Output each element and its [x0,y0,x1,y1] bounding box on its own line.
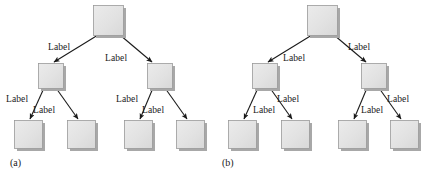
tree-diagram-figure: LabelLabelLabelLabelLabelLabelLabelLabel… [0,0,428,179]
panel-b-leaf-node-1[interactable] [229,121,260,152]
node-box[interactable] [148,64,173,89]
panel-a-edge-label-left-leaf2: Label [33,106,55,116]
nodes-group [15,6,422,152]
panel-a-edge-label-right-leaf3: Label [116,95,138,105]
node-box[interactable] [339,121,367,149]
panel-a-edge-label-left-leaf1: Label [6,95,28,105]
panel-b-leaf-node-3[interactable] [339,121,370,152]
node-box[interactable] [94,6,124,36]
node-box[interactable] [362,64,387,89]
panel-a-leaf-node-2[interactable] [68,121,99,152]
panel-a-edge-label-root-right: Label [105,54,127,64]
panel-caption-b: (b) [222,158,234,168]
node-box[interactable] [308,6,338,36]
panel-b-leaf-node-2[interactable] [282,121,313,152]
diagram-canvas [0,0,428,179]
panel-a-leaf-node-3[interactable] [125,121,156,152]
panel-b-edge-label-root-right: Label [348,43,370,53]
node-box[interactable] [282,121,310,149]
panel-a-edge-left-to-leaf2 [56,88,78,119]
edges-group [30,35,401,119]
node-box[interactable] [253,64,278,89]
panel-caption-a: (a) [10,158,21,168]
panel-b-edge-label-left-leaf2: Label [277,95,299,105]
node-box[interactable] [68,121,96,149]
panel-a-internal-node-right[interactable] [148,64,176,92]
panel-b-edge-label-left-leaf1: Label [253,106,275,116]
panel-a-leaf-node-1[interactable] [15,121,46,152]
panel-b-internal-node-right[interactable] [362,64,390,92]
panel-a-edge-label-right-leaf4: Label [142,106,164,116]
node-box[interactable] [177,121,205,149]
node-box[interactable] [39,64,64,89]
panel-a-root-node[interactable] [94,6,127,39]
panel-b-edge-label-right-leaf3: Label [361,106,383,116]
panel-b-leaf-node-4[interactable] [391,121,422,152]
panel-b-edge-label-root-left: Label [283,54,305,64]
panel-a-edge-right-to-leaf4 [165,88,187,119]
panel-a-internal-node-left[interactable] [39,64,67,92]
panel-b-root-node[interactable] [308,6,341,39]
panel-b-edge-label-right-leaf4: Label [387,95,409,105]
panel-a-edge-label-root-left: Label [48,43,70,53]
node-box[interactable] [229,121,257,149]
panel-a-leaf-node-4[interactable] [177,121,208,152]
node-box[interactable] [125,121,153,149]
node-box[interactable] [15,121,43,149]
node-box[interactable] [391,121,419,149]
panel-b-internal-node-left[interactable] [253,64,281,92]
